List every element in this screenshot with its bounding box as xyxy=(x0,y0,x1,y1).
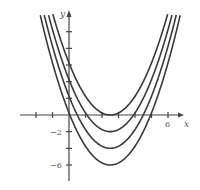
x-axis-label: x xyxy=(184,119,189,129)
y-tick-label: −6 xyxy=(50,161,62,170)
y-tick-label: −2 xyxy=(50,128,62,137)
x-axis-arrow-icon xyxy=(178,113,184,118)
parabola-family-chart: xy6−2−6 xyxy=(0,0,200,190)
y-axis-arrow-icon xyxy=(67,10,72,17)
curve-c-6 xyxy=(40,15,180,165)
curve-c-2 xyxy=(49,15,172,132)
x-tick-label: 6 xyxy=(165,120,170,129)
curve-c-4 xyxy=(44,15,176,148)
y-axis-label: y xyxy=(59,9,66,19)
curves xyxy=(40,14,180,165)
